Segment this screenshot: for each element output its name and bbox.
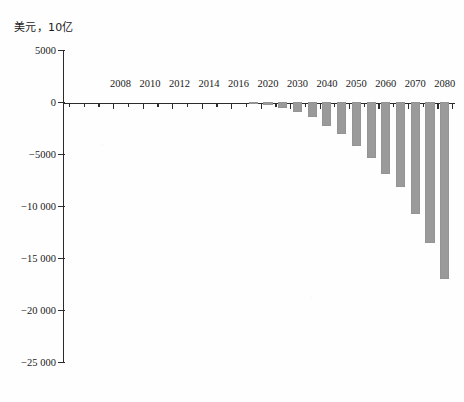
y-tick (58, 154, 65, 155)
x-tick (364, 103, 365, 107)
chart-root: 美元，10亿 50000−5000−10 000−15 000−20 000−2… (0, 0, 464, 402)
x-tick (378, 103, 379, 109)
bar (425, 102, 434, 243)
x-tick (290, 103, 291, 109)
x-tick (334, 103, 335, 107)
y-tick-label: 5000 (4, 45, 56, 56)
x-tick (98, 103, 99, 107)
x-tick-label: 2014 (199, 78, 220, 89)
x-tick (305, 103, 306, 107)
y-tick (58, 206, 65, 207)
x-tick (261, 103, 262, 109)
x-tick (231, 103, 232, 109)
x-tick-label: 2016 (228, 78, 249, 89)
x-tick (393, 103, 394, 107)
bar (278, 102, 287, 108)
bar (293, 102, 302, 112)
bar (308, 102, 317, 117)
x-tick-label: 2050 (346, 78, 367, 89)
y-axis-tick-labels: 50000−5000−10 000−15 000−20 000−25 000 (0, 0, 56, 402)
x-tick (452, 103, 453, 109)
y-tick (58, 362, 65, 363)
x-tick (275, 103, 276, 107)
x-tick-label: 2070 (405, 78, 426, 89)
x-tick (320, 103, 321, 109)
x-tick (128, 103, 129, 107)
x-tick (143, 103, 144, 109)
bar (411, 102, 420, 214)
x-tick-label: 2030 (287, 78, 308, 89)
x-tick-label: 2020 (257, 78, 278, 89)
x-tick (423, 103, 424, 107)
bar (337, 102, 346, 134)
bar (249, 102, 258, 104)
bar (396, 102, 405, 187)
y-tick-label: −15 000 (4, 253, 56, 264)
bar (263, 102, 272, 105)
x-tick (84, 103, 85, 107)
x-tick-label: 2010 (140, 78, 161, 89)
paper-texture (0, 0, 464, 402)
y-tick-label: −5000 (4, 149, 56, 160)
y-tick (58, 258, 65, 259)
x-tick (246, 103, 247, 107)
x-tick (157, 103, 158, 107)
x-tick-label: 2008 (110, 78, 131, 89)
y-tick-label: −10 000 (4, 201, 56, 212)
bar (322, 102, 331, 126)
x-tick-label: 2080 (434, 78, 455, 89)
y-tick-label: −20 000 (4, 305, 56, 316)
x-tick (408, 103, 409, 109)
bar (352, 102, 361, 146)
x-tick (69, 103, 70, 107)
x-tick-label: 2060 (375, 78, 396, 89)
y-tick-label: −25 000 (4, 357, 56, 368)
y-tick (58, 50, 65, 51)
y-tick-label: 0 (4, 97, 56, 108)
x-tick (349, 103, 350, 109)
x-tick (113, 103, 114, 109)
x-tick (187, 103, 188, 107)
x-tick-label: 2012 (169, 78, 190, 89)
x-tick (202, 103, 203, 109)
x-tick (172, 103, 173, 109)
bar (381, 102, 390, 174)
x-tick (437, 103, 438, 109)
y-tick (58, 102, 65, 103)
y-tick (58, 310, 65, 311)
bar (367, 102, 376, 158)
x-tick (216, 103, 217, 107)
x-tick-label: 2040 (316, 78, 337, 89)
bar (440, 102, 449, 279)
